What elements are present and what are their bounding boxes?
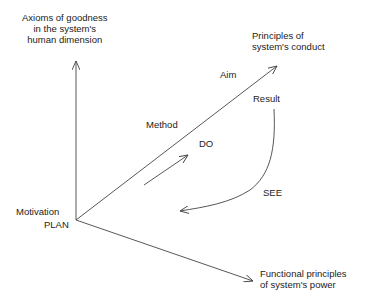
result-label: Result xyxy=(253,93,280,104)
horizontal-axis-label: Functional principles of system's power xyxy=(260,268,347,290)
method-label: Method xyxy=(146,119,178,130)
diagonal-axis-arrow xyxy=(76,66,277,220)
aim-label: Aim xyxy=(220,69,236,80)
do-label: DO xyxy=(199,138,213,149)
do-arrow xyxy=(144,155,188,185)
see-label: SEE xyxy=(263,187,282,198)
horizontal-axis-arrow xyxy=(76,220,253,281)
vertical-axis-label: Axioms of goodness in the system's human… xyxy=(22,12,108,45)
plan-label: PLAN xyxy=(44,219,69,230)
motivation-label: Motivation xyxy=(16,206,59,217)
see-curved-arrow xyxy=(180,109,274,211)
diagonal-axis-label: Principles of system's conduct xyxy=(252,30,325,52)
pdca-diagram: Axioms of goodness in the system's human… xyxy=(0,0,367,306)
